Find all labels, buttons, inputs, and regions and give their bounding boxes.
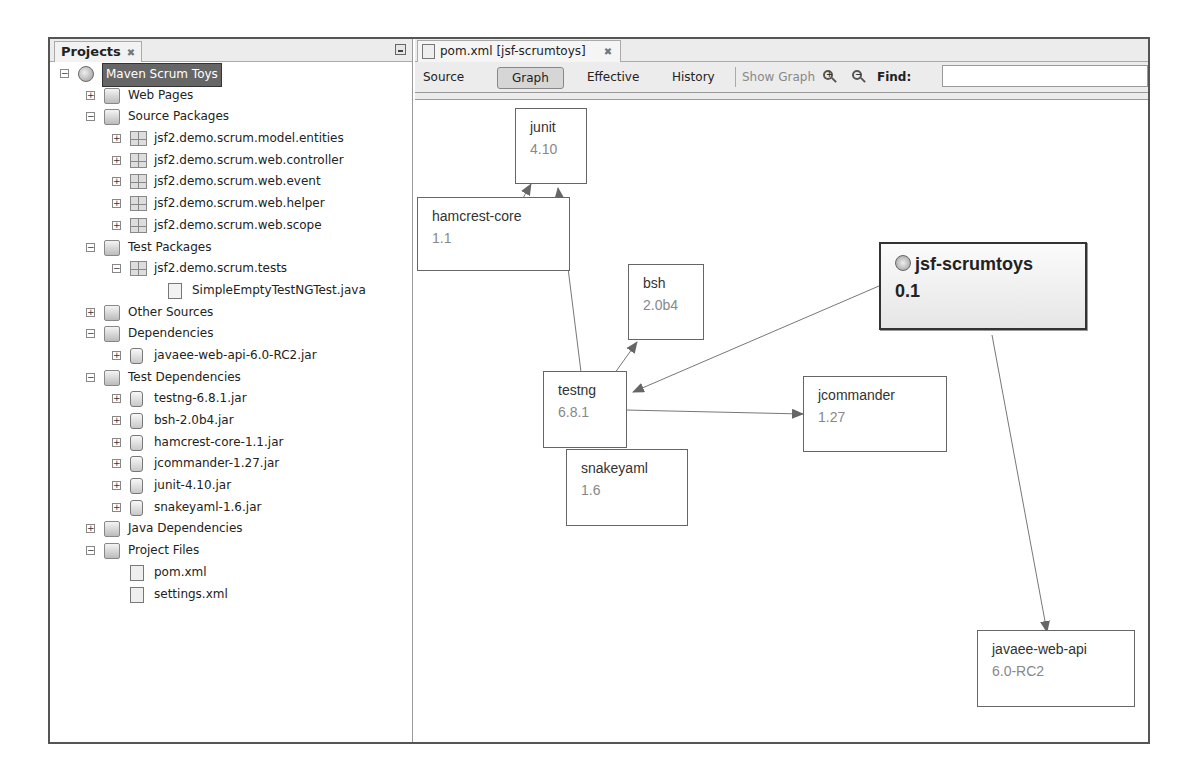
maven-project-icon [895,255,911,271]
tree-item-label: Maven Scrum Toys [102,63,222,87]
collapse-icon[interactable]: − [86,329,95,338]
edge-hamcrest-junit [523,184,531,198]
other-sources-folder-icon [104,305,120,321]
expand-icon[interactable]: + [112,503,121,512]
collapse-icon[interactable]: − [86,112,95,121]
projects-tab-label: Projects [61,44,121,59]
source-button[interactable]: Source [423,67,464,87]
tree-item[interactable]: −Dependencies [50,323,412,345]
expand-icon[interactable]: + [112,394,121,403]
collapse-icon[interactable]: − [60,69,69,78]
close-icon[interactable]: ✖ [604,46,612,57]
jar-icon [130,348,143,364]
test-packages-folder-icon [104,240,120,256]
graph-node-testng[interactable]: testng 6.8.1 [543,371,627,448]
xml-file-icon [130,587,144,603]
tree-item[interactable]: SimpleEmptyTestNGTest.java [50,280,412,302]
tree-item[interactable]: +javaee-web-api-6.0-RC2.jar [50,345,412,367]
expand-icon[interactable]: + [86,91,95,100]
find-label: Find: [877,67,911,87]
expand-icon[interactable]: + [112,156,121,165]
tree-item[interactable]: −Test Dependencies [50,367,412,389]
tree-item[interactable]: +jsf2.demo.scrum.web.helper [50,193,412,215]
ide-window: Projects✖ −Maven Scrum Toys+Web Pages−So… [48,37,1150,744]
graph-node-jsf-scrumtoys[interactable]: jsf-scrumtoys 0.1 [879,242,1087,330]
close-icon[interactable]: ✖ [127,47,135,58]
editor-panel: pom.xml [jsf-scrumtoys]✖ Source Graph Ef… [415,39,1148,742]
editor-toolbar: Source Graph Effective History Show Grap… [415,62,1148,93]
tree-item[interactable]: +snakeyaml-1.6.jar [50,497,412,519]
tree-item[interactable]: +jsf2.demo.scrum.web.event [50,171,412,193]
graph-node-hamcrest-core[interactable]: hamcrest-core 1.1 [417,197,570,271]
package-icon [130,218,147,233]
effective-button[interactable]: Effective [587,67,639,87]
tree-item[interactable]: +Other Sources [50,302,412,324]
jar-icon [130,456,143,472]
java-dependencies-folder-icon [104,521,120,537]
tree-item[interactable]: +jsf2.demo.scrum.web.controller [50,150,412,172]
graph-node-bsh[interactable]: bsh 2.0b4 [628,264,704,340]
history-button[interactable]: History [672,67,715,87]
zoom-in-icon[interactable]: + [823,70,833,80]
jar-icon [130,435,143,451]
tree-item[interactable]: pom.xml [50,562,412,584]
projects-tab[interactable]: Projects✖ [54,41,142,62]
xml-file-icon [422,44,435,59]
expand-icon[interactable]: + [112,351,121,360]
collapse-icon[interactable]: − [112,264,121,273]
tree-item[interactable]: +junit-4.10.jar [50,475,412,497]
tree-item[interactable]: +jsf2.demo.scrum.model.entities [50,128,412,150]
tree-item[interactable]: −Maven Scrum Toys [50,63,412,85]
package-icon [130,261,147,276]
expand-icon[interactable]: + [112,459,121,468]
tree-item-label: jsf2.demo.scrum.model.entities [154,128,344,150]
tree-item[interactable]: +Web Pages [50,85,412,107]
tab-pom-xml[interactable]: pom.xml [jsf-scrumtoys]✖ [417,40,621,62]
tree-item[interactable]: −Test Packages [50,237,412,259]
zoom-out-icon[interactable]: − [852,70,862,80]
expand-icon[interactable]: + [86,524,95,533]
tree-item[interactable]: +jcommander-1.27.jar [50,453,412,475]
expand-icon[interactable]: + [112,221,121,230]
tree-item[interactable]: −Project Files [50,540,412,562]
expand-icon[interactable]: + [112,416,121,425]
expand-icon[interactable]: + [112,481,121,490]
tree-item[interactable]: +testng-6.8.1.jar [50,388,412,410]
jar-icon [130,391,143,407]
dependencies-folder-icon [104,326,120,342]
graph-node-jcommander[interactable]: jcommander 1.27 [803,376,947,452]
expand-icon[interactable]: + [112,438,121,447]
tree-item-label: Source Packages [128,106,229,128]
tree-item-label: jsf2.demo.scrum.web.helper [154,193,325,215]
tree-item[interactable]: +Java Dependencies [50,518,412,540]
collapse-icon[interactable]: − [86,243,95,252]
jar-icon [130,413,143,429]
source-packages-folder-icon [104,109,120,125]
projects-panel: Projects✖ −Maven Scrum Toys+Web Pages−So… [50,39,413,742]
graph-node-junit[interactable]: junit 4.10 [515,108,587,184]
tree-item[interactable]: settings.xml [50,584,412,606]
collapse-icon[interactable]: − [86,546,95,555]
tree-item[interactable]: −jsf2.demo.scrum.tests [50,258,412,280]
graph-node-javaee-web-api[interactable]: javaee-web-api 6.0-RC2 [977,630,1135,707]
expand-icon[interactable]: + [112,134,121,143]
jar-icon [130,478,143,494]
graph-node-snakeyaml[interactable]: snakeyaml 1.6 [566,449,688,526]
expand-icon[interactable]: + [112,177,121,186]
tree-item-label: jsf2.demo.scrum.web.event [154,171,321,193]
tree-item[interactable]: +hamcrest-core-1.1.jar [50,432,412,454]
tree-item-label: Test Packages [128,237,211,259]
jar-icon [130,500,143,516]
tree-item-label: Test Dependencies [128,367,241,389]
expand-icon[interactable]: + [112,199,121,208]
tree-item[interactable]: −Source Packages [50,106,412,128]
collapse-icon[interactable]: − [86,373,95,382]
tree-item[interactable]: +jsf2.demo.scrum.web.scope [50,215,412,237]
expand-icon[interactable]: + [86,308,95,317]
find-input[interactable] [942,65,1148,87]
tree-item-label: Other Sources [128,302,213,324]
graph-button[interactable]: Graph [497,67,564,89]
show-graph-button[interactable]: Show Graph [742,67,815,87]
tree-item[interactable]: +bsh-2.0b4.jar [50,410,412,432]
minimize-icon[interactable] [395,44,406,55]
